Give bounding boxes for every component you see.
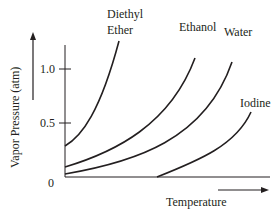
x-arrow-head-icon <box>261 187 269 193</box>
label-diethyl: Diethyl <box>107 7 144 21</box>
tick-label-0.5: 0.5 <box>40 116 55 130</box>
tick-label-1.0: 1.0 <box>40 62 55 76</box>
label-ether: Ether <box>107 23 133 37</box>
y-arrow-head-icon <box>30 32 36 40</box>
label-ethanol: Ethanol <box>179 20 217 34</box>
label-iodine: Iodine <box>240 96 271 110</box>
curve-iodine <box>157 112 251 177</box>
label-water: Water <box>224 25 252 39</box>
y-axis-label: Vapor Pressure (atm) <box>8 67 22 168</box>
curve-ethanol <box>65 58 195 167</box>
tick-label-0: 0 <box>48 176 54 190</box>
x-axis-label: Temperature <box>166 195 226 209</box>
curve-diethyl-ether <box>65 41 119 146</box>
vapor-pressure-chart: 1.0 0.5 0 Vapor Pressure (atm) Temperatu… <box>0 0 280 221</box>
